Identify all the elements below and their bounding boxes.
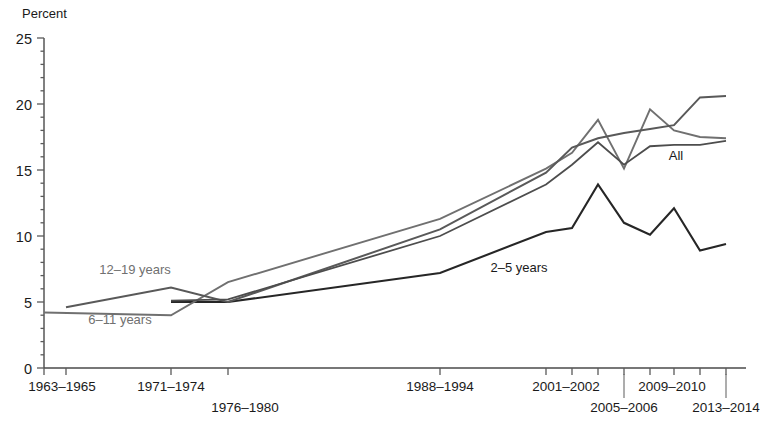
y-tick-label: 20 — [16, 97, 32, 113]
series-annotation: 2–5 years — [490, 260, 548, 275]
x-tick-label: 2005–2006 — [590, 400, 658, 415]
series-line-6-11-years — [44, 109, 726, 315]
series-annotation: 12–19 years — [99, 262, 171, 277]
y-tick-label: 10 — [16, 229, 32, 245]
series-annotation: All — [669, 148, 684, 163]
series-line-2-5-years — [171, 185, 726, 302]
chart-svg: 0510152025 12–19 years6–11 years2–5 year… — [0, 0, 774, 424]
y-axis-ticks: 0510152025 — [16, 31, 44, 377]
data-series-group — [44, 96, 726, 315]
x-tick-label: 2001–2002 — [532, 379, 600, 394]
x-tick-label: 1963–1965 — [28, 379, 96, 394]
x-tick-label: 2013–2014 — [692, 400, 760, 415]
x-tick-label: 2009–2010 — [638, 379, 706, 394]
y-tick-label: 5 — [24, 295, 32, 311]
y-tick-label: 15 — [16, 163, 32, 179]
series-annotation: 6–11 years — [88, 312, 152, 327]
y-tick-label: 25 — [16, 31, 32, 47]
x-axis-ticks — [44, 368, 726, 375]
series-line-All — [171, 141, 726, 301]
y-tick-label: 0 — [24, 361, 32, 377]
x-axis-tick-labels: 1963–19651971–19741988–19942001–20022009… — [28, 379, 760, 415]
x-tick-label: 1988–1994 — [406, 379, 474, 394]
y-axis-title: Percent — [22, 6, 67, 21]
line-chart-figure: 0510152025 12–19 years6–11 years2–5 year… — [0, 0, 774, 424]
x-tick-label: 1971–1974 — [137, 379, 205, 394]
x-tick-label: 1976–1980 — [211, 400, 279, 415]
